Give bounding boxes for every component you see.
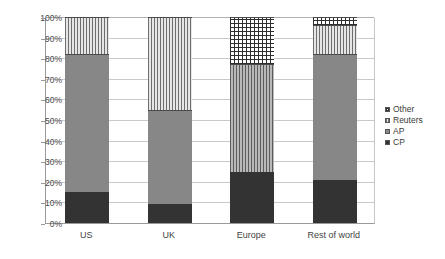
- legend-label: AP: [392, 126, 404, 137]
- bar-rest-of-world[interactable]: [313, 17, 357, 223]
- bar-segment-other[interactable]: [313, 17, 357, 25]
- y-tick-mark: [41, 18, 45, 19]
- y-tick-mark: [41, 142, 45, 143]
- legend-swatch-icon: [385, 140, 390, 145]
- bar-segment-cp[interactable]: [313, 180, 357, 223]
- legend-item-ap[interactable]: AP: [385, 126, 423, 137]
- y-tick-mark: [41, 162, 45, 163]
- bar-us[interactable]: [65, 17, 109, 223]
- bar-segment-reuters[interactable]: [65, 17, 109, 54]
- bar-segment-ap[interactable]: [313, 54, 357, 180]
- bar-segment-ap[interactable]: [65, 54, 109, 192]
- legend-item-other[interactable]: Other: [385, 104, 423, 115]
- y-tick-mark: [41, 80, 45, 81]
- bar-segment-cp[interactable]: [148, 204, 192, 223]
- legend-label: Reuters: [392, 115, 423, 126]
- bar-segment-reuters[interactable]: [313, 25, 357, 54]
- y-tick-mark: [41, 203, 45, 204]
- bar-europe[interactable]: [230, 17, 274, 223]
- bar-uk[interactable]: [148, 17, 192, 223]
- plot-area: [45, 18, 375, 224]
- y-tick-mark: [41, 100, 45, 101]
- bar-segment-cp[interactable]: [230, 172, 274, 224]
- bar-segment-ap[interactable]: [148, 110, 192, 205]
- legend-swatch-icon: [385, 107, 390, 112]
- chart-legend: OtherReutersAPCP: [385, 104, 423, 148]
- legend-swatch-icon: [385, 118, 390, 123]
- y-tick-mark: [41, 59, 45, 60]
- legend-item-cp[interactable]: CP: [385, 137, 423, 148]
- legend-swatch-icon: [385, 129, 390, 134]
- bar-segment-ap[interactable]: [230, 64, 274, 171]
- bar-segment-reuters[interactable]: [148, 17, 192, 110]
- y-tick-mark: [41, 39, 45, 40]
- y-tick-mark: [41, 224, 45, 225]
- x-axis-label-rest-of-world: Rest of world: [286, 230, 382, 240]
- legend-item-reuters[interactable]: Reuters: [385, 115, 423, 126]
- y-tick-mark: [41, 183, 45, 184]
- bar-segment-reuters[interactable]: [230, 17, 274, 64]
- stacked-bar-chart: 100%90%80%70%60%50%40%30%20%10%0% USUKEu…: [0, 0, 445, 259]
- y-tick-mark: [41, 121, 45, 122]
- bar-segment-cp[interactable]: [65, 192, 109, 223]
- legend-label: Other: [392, 104, 414, 115]
- legend-label: CP: [392, 137, 405, 148]
